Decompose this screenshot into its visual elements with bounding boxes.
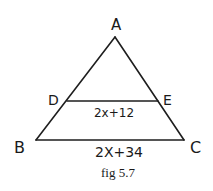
segment-DE-label: 2x+12 xyxy=(94,106,134,120)
label-C: C xyxy=(190,138,201,157)
side-AB xyxy=(36,37,115,140)
triangle-figure: A D E B C 2x+12 2X+34 fig 5.7 xyxy=(0,0,213,191)
label-D: D xyxy=(48,92,59,108)
side-AC xyxy=(115,37,184,140)
label-B: B xyxy=(14,138,25,157)
figure-caption: fig 5.7 xyxy=(101,165,135,180)
label-A: A xyxy=(111,16,122,34)
segment-BC-label: 2X+34 xyxy=(95,144,143,160)
label-E: E xyxy=(163,92,172,108)
